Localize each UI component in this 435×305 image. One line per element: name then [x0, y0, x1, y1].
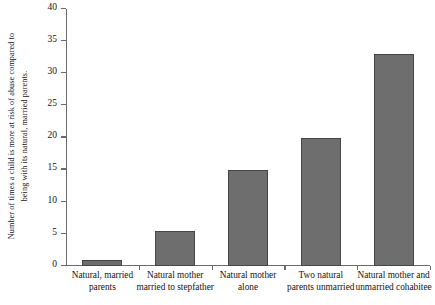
x-axis-labels: Natural, marriedparentsNatural mothermar… — [66, 269, 430, 305]
y-axis-tick-label: 35 — [48, 35, 58, 45]
y-axis-tick-label: 40 — [48, 3, 58, 13]
y-axis-tick: 25 — [61, 104, 66, 105]
y-axis-tick-label: 15 — [48, 164, 58, 174]
plot-area: 0510152025303540 — [66, 9, 430, 266]
y-axis-tick-label: 25 — [48, 99, 58, 109]
bar — [228, 170, 268, 266]
y-axis-title-line-1: Number of times a child is more at risk … — [5, 33, 18, 240]
y-axis-tick: 10 — [61, 201, 66, 202]
y-axis-title: Number of times a child is more at risk … — [0, 0, 36, 272]
y-axis-tick: 40 — [61, 8, 66, 9]
bar — [301, 138, 341, 267]
bar — [155, 231, 195, 266]
y-axis-tick: 5 — [61, 233, 66, 234]
y-axis-tick-label: 20 — [48, 132, 58, 142]
y-axis-tick-label: 10 — [48, 196, 58, 206]
y-axis-line — [66, 9, 67, 266]
bar — [374, 54, 414, 266]
bar — [82, 260, 122, 266]
x-axis-label-line: Natural mother and — [347, 269, 435, 281]
y-axis-tick: 30 — [61, 72, 66, 73]
x-axis-label-line: unmarried cohabitee — [347, 281, 435, 293]
x-axis-label: Natural mother andunmarried cohabitee — [347, 269, 435, 294]
bar-chart: Number of times a child is more at risk … — [0, 0, 435, 305]
y-axis-tick: 35 — [61, 40, 66, 41]
y-axis-tick: 20 — [61, 136, 66, 137]
y-axis-tick-label: 5 — [52, 228, 57, 238]
y-axis-tick: 15 — [61, 168, 66, 169]
y-axis-tick: 0 — [61, 265, 66, 266]
y-axis-title-line-2: being with its natural, married parents. — [18, 33, 31, 240]
y-axis-tick-label: 30 — [48, 67, 58, 77]
